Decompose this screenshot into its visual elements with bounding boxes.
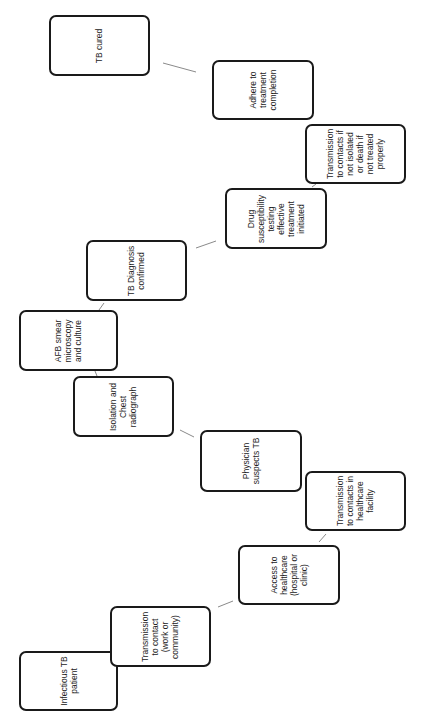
node-transmission-isolated: Transmission to contacts if not isolated… [305, 124, 406, 184]
connector-adhere-to-cured [163, 63, 196, 72]
node-access: Access to healthcare (hospital or clinic… [238, 545, 340, 605]
node-cured: TB cured [49, 15, 150, 76]
node-label: Isolation and Chest radiograph [108, 382, 138, 430]
tb-care-pathway-diagram: Infectious TB patientTransmission to con… [0, 0, 426, 723]
node-drug: Drug susceptibility testing effective tr… [225, 188, 327, 249]
node-isolation: Isolation and Chest radiograph [73, 376, 174, 437]
node-transmission-healthcare: Transmission to contacts in healthcare f… [305, 471, 406, 531]
connector-isolation-to-physician [180, 430, 194, 437]
node-label: AFB smear microscopy and culture [53, 319, 83, 362]
connector-drug-to-transmission_isolated [312, 184, 316, 187]
node-transmission-contact: Transmission to contact (work or communi… [110, 606, 211, 667]
connector-access-to-transmission_healthcare [319, 534, 326, 542]
node-label: Transmission to contacts if not isolated… [325, 129, 385, 179]
node-afb: AFB smear microscopy and culture [19, 310, 118, 371]
connector-transmission_contact-to-access [218, 601, 233, 607]
node-infectious: Infectious TB patient [19, 651, 118, 711]
connector-diagnosis-to-drug [196, 241, 216, 248]
node-label: Transmission to contact (work or communi… [140, 611, 180, 661]
node-label: Drug susceptibility testing effective tr… [246, 194, 306, 242]
connector-afb-to-diagnosis [99, 303, 104, 310]
node-physician: Physician suspects TB [200, 430, 302, 492]
node-label: Transmission to contacts in healthcare f… [335, 476, 375, 526]
node-label: Adhere to treatment completion [248, 69, 278, 110]
node-label: TB Diagnosis confirmed [127, 245, 147, 296]
node-label: Access to healthcare (hospital or clinic… [269, 554, 309, 596]
node-label: Infectious TB patient [58, 656, 78, 705]
node-adhere: Adhere to treatment completion [212, 60, 314, 120]
node-label: TB cured [95, 28, 105, 63]
node-label: Physician suspects TB [241, 438, 261, 485]
node-diagnosis: TB Diagnosis confirmed [86, 240, 187, 301]
